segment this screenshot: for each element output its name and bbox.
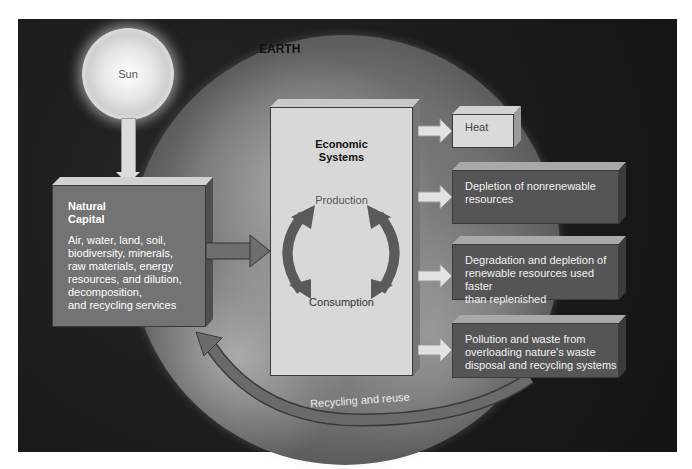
- economic-systems-box: Economic Systems Production Consumption: [270, 99, 420, 376]
- output-arrows: [418, 0, 454, 469]
- box-front: Natural Capital Air, water, land, soil, …: [52, 185, 206, 327]
- production-consumption-cycle-icon: [271, 203, 414, 303]
- box-top-bevel: [452, 106, 521, 114]
- depletion-nonrenewable-box: Depletion of nonrenewable resources: [452, 162, 626, 224]
- output-label: Degradation and depletion of renewable r…: [465, 254, 618, 306]
- natural-capital-description: Air, water, land, soil, biodiversity, mi…: [68, 234, 182, 312]
- box-side-bevel: [619, 315, 626, 378]
- title-line: Capital: [68, 213, 106, 226]
- output-label: Depletion of nonrenewable resources: [465, 180, 596, 206]
- title-line: Natural: [68, 200, 106, 213]
- box-top-bevel: [52, 177, 213, 185]
- sun: Sun: [82, 28, 174, 120]
- box-side-bevel: [619, 236, 626, 300]
- sun-to-capital-arrow: [121, 118, 136, 175]
- heat-box: Heat: [452, 106, 521, 148]
- box-front: Pollution and waste from overloading nat…: [452, 323, 619, 378]
- title-line: Systems: [271, 151, 412, 164]
- consumption-label: Consumption: [271, 296, 412, 308]
- natural-capital-title: Natural Capital: [68, 200, 106, 226]
- box-top-bevel: [452, 162, 626, 170]
- box-side-bevel: [619, 162, 626, 224]
- economic-systems-title: Economic Systems: [271, 138, 412, 164]
- title-line: Economic: [271, 138, 412, 151]
- box-front: Depletion of nonrenewable resources: [452, 170, 619, 224]
- box-top-bevel: [452, 236, 626, 244]
- pollution-waste-box: Pollution and waste from overloading nat…: [452, 315, 626, 378]
- arrow-right-icon: [206, 233, 272, 269]
- box-top-bevel: [452, 315, 626, 323]
- output-label: Heat: [465, 121, 488, 134]
- box-front: Economic Systems Production Consumption: [270, 107, 413, 376]
- output-label: Pollution and waste from overloading nat…: [465, 333, 617, 372]
- degradation-renewable-box: Degradation and depletion of renewable r…: [452, 236, 626, 300]
- box-front: Degradation and depletion of renewable r…: [452, 244, 619, 300]
- natural-capital-box: Natural Capital Air, water, land, soil, …: [52, 177, 213, 327]
- box-front: Heat: [452, 114, 514, 148]
- box-top-bevel: [270, 99, 420, 107]
- sun-label: Sun: [118, 68, 138, 80]
